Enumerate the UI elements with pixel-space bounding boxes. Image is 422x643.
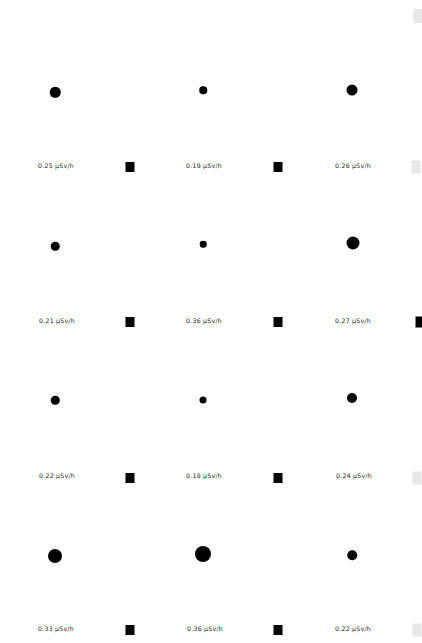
reading-square-marker[interactable]: [126, 317, 135, 327]
reading-dot-marker[interactable]: [347, 85, 358, 96]
reading-dot-marker[interactable]: [347, 550, 357, 560]
reading-value-label: 0.33 µSv/h: [38, 626, 74, 632]
reading-value-label: 0.22 µSv/h: [39, 473, 75, 479]
reading-dot-marker[interactable]: [347, 237, 360, 250]
reading-dot-marker[interactable]: [51, 396, 60, 405]
reading-dot-marker[interactable]: [195, 546, 211, 562]
reading-dot-marker[interactable]: [48, 549, 62, 563]
reading-value-label: 0.36 µSv/h: [187, 626, 223, 632]
reading-dot-marker[interactable]: [199, 86, 207, 94]
reading-square-marker[interactable]: [416, 317, 422, 328]
reading-value-label: 0.36 µSv/h: [186, 318, 222, 324]
reading-dot-marker[interactable]: [200, 397, 207, 404]
reading-square-marker[interactable]: [412, 161, 421, 174]
reading-value-label: 0.25 µSv/h: [38, 163, 74, 169]
reading-dot-marker[interactable]: [347, 393, 357, 403]
reading-value-label: 0.18 µSv/h: [186, 473, 222, 479]
reading-square-marker[interactable]: [413, 624, 422, 637]
reading-square-marker[interactable]: [126, 625, 135, 635]
reading-square-marker[interactable]: [274, 317, 283, 327]
reading-square-marker[interactable]: [126, 473, 135, 483]
reading-square-marker[interactable]: [274, 625, 283, 635]
reading-square-marker[interactable]: [274, 473, 283, 483]
reading-value-label: 0.26 µSv/h: [335, 163, 371, 169]
edge-square-marker: [414, 9, 422, 23]
reading-square-marker[interactable]: [126, 162, 135, 172]
reading-value-label: 0.27 µSv/h: [335, 318, 371, 324]
reading-value-label: 0.22 µSv/h: [335, 626, 371, 632]
reading-square-marker[interactable]: [413, 472, 422, 485]
measurement-grid-canvas: 0.25 µSv/h0.19 µSv/h0.26 µSv/h0.21 µSv/h…: [0, 0, 422, 643]
reading-value-label: 0.19 µSv/h: [186, 163, 222, 169]
reading-dot-marker[interactable]: [50, 87, 61, 98]
reading-dot-marker[interactable]: [51, 242, 60, 251]
reading-value-label: 0.21 µSv/h: [39, 318, 75, 324]
reading-dot-marker[interactable]: [200, 241, 207, 248]
reading-value-label: 0.24 µSv/h: [336, 473, 372, 479]
reading-square-marker[interactable]: [274, 162, 283, 172]
